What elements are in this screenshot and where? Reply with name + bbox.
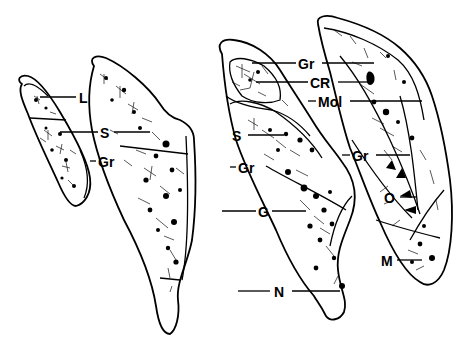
label-CR: CR bbox=[310, 75, 330, 91]
label-Gr-2: Gr bbox=[238, 160, 255, 176]
label-Mol: Mol bbox=[318, 94, 342, 110]
label-G: G bbox=[258, 204, 269, 220]
label-Gr-top: Gr bbox=[298, 56, 315, 72]
label-S-1: S bbox=[100, 125, 109, 141]
tissue-sections-diagram: L S Gr Gr G N S Gr CR Mol Gr O M bbox=[0, 0, 466, 351]
label-L: L bbox=[79, 90, 88, 106]
label-N: N bbox=[274, 284, 284, 300]
section-2 bbox=[89, 56, 195, 334]
label-Gr-4: Gr bbox=[352, 148, 369, 164]
label-S-3: S bbox=[232, 128, 241, 144]
label-M: M bbox=[381, 253, 393, 269]
label-O: O bbox=[384, 190, 395, 206]
label-Gr-1: Gr bbox=[98, 154, 115, 170]
section-4 bbox=[318, 16, 452, 285]
